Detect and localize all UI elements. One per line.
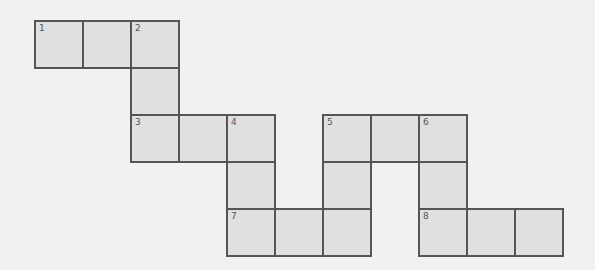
crossword-cell[interactable]	[370, 114, 420, 163]
crossword-cell[interactable]: 8	[418, 208, 468, 257]
clue-number: 2	[135, 23, 141, 33]
crossword-grid: 12347568	[0, 0, 595, 270]
crossword-cell[interactable]	[274, 208, 324, 257]
clue-number: 4	[231, 117, 237, 127]
crossword-cell[interactable]: 5	[322, 114, 372, 163]
crossword-cell[interactable]: 3	[130, 114, 180, 163]
clue-number: 1	[39, 23, 45, 33]
crossword-cell[interactable]	[466, 208, 516, 257]
crossword-cell[interactable]: 2	[130, 20, 180, 69]
crossword-cell[interactable]	[514, 208, 564, 257]
crossword-cell[interactable]	[82, 20, 132, 69]
crossword-cell[interactable]	[322, 161, 372, 210]
crossword-cell[interactable]	[226, 161, 276, 210]
crossword-cell[interactable]	[130, 67, 180, 116]
crossword-cell[interactable]	[322, 208, 372, 257]
clue-number: 6	[423, 117, 429, 127]
crossword-cell[interactable]: 4	[226, 114, 276, 163]
clue-number: 8	[423, 211, 429, 221]
crossword-cell[interactable]	[178, 114, 228, 163]
crossword-cell[interactable]	[418, 161, 468, 210]
crossword-cell[interactable]: 6	[418, 114, 468, 163]
crossword-cell[interactable]: 1	[34, 20, 84, 69]
clue-number: 7	[231, 211, 237, 221]
clue-number: 5	[327, 117, 333, 127]
clue-number: 3	[135, 117, 141, 127]
crossword-cell[interactable]: 7	[226, 208, 276, 257]
